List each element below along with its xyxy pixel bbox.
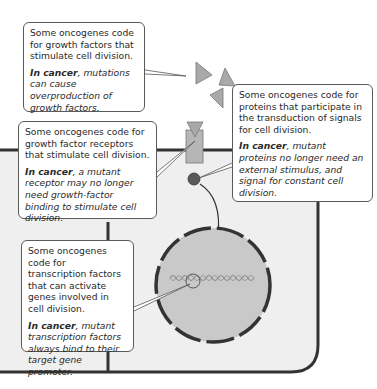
callout-cancer-text: In cancer, mutations can cause overprodu… [30,67,138,113]
pointer-growth-factors [145,70,186,76]
cancer-label: In cancer [239,140,287,151]
signal-protein-icon [188,173,200,185]
callout-text: Some oncogenes code for transcription fa… [28,245,127,315]
growth-factor-icon [219,68,235,86]
callout-transcription-factors: Some oncogenes code for transcription fa… [21,240,134,352]
callout-cancer-text: In cancer, mutant proteins no longer nee… [239,140,366,198]
cancer-label: In cancer [30,67,78,78]
callout-signal-transduction: Some oncogenes code for proteins that pa… [232,84,373,202]
callout-text: Some oncogenes code for growth factors t… [30,27,138,62]
callout-cancer-text: In cancer, mutant transcription factors … [28,320,127,378]
growth-factor-icon [196,62,212,84]
callout-growth-factor-receptors: Some oncogenes code for growth factor re… [18,121,157,219]
cancer-label: In cancer [25,166,73,177]
callout-growth-factors: Some oncogenes code for growth factors t… [23,22,145,112]
callout-text: Some oncogenes code for growth factor re… [25,126,150,161]
growth-factor-icon [210,88,223,108]
callout-cancer-text: In cancer, a mutant receptor may no long… [25,166,150,224]
nucleus [156,228,270,342]
cancer-label: In cancer [28,320,76,331]
callout-text: Some oncogenes code for proteins that pa… [239,89,366,135]
